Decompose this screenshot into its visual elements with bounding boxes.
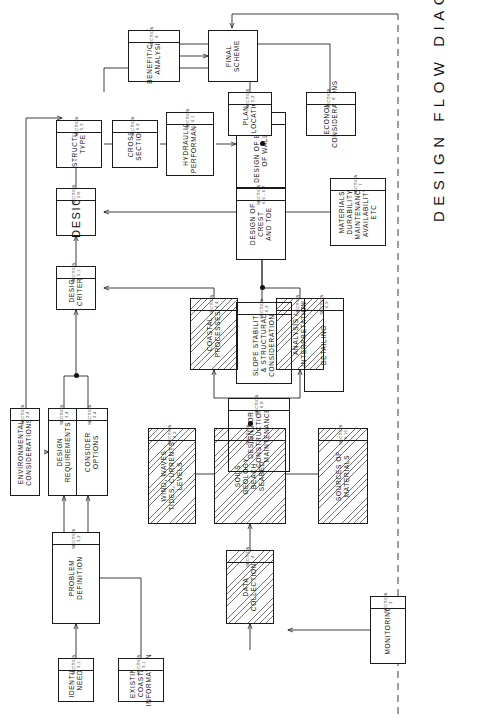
node-coastal-processes[interactable]: COASTAL PROCESSES SECTION 4.4 [190,298,238,370]
node-section: SECTION 7 [331,179,385,191]
node-label: DESIGN REQUIREMENTS [56,422,72,482]
node-section: SECTION 6.8 [229,399,289,411]
node-section: SECTION 5.3 [57,121,101,133]
node-sources-of-materials[interactable]: SOURCES OF MATERIALS SECTION 4.10 [318,428,368,524]
node-section: SECTION 5/6 [57,189,95,201]
diagram-page: IDENTIFY NEED SECTION 3.1 EXISTING COAST… [0,0,478,728]
node-section: SECTION 2 [371,597,405,609]
node-section: SECTION 4 [227,551,273,563]
node-label: COASTAL PROCESSES [206,311,222,358]
node-hydraulic-performance[interactable]: HYDRAULIC PERFORMANCE SECTION 6.1 [166,112,214,176]
node-final-scheme[interactable]: FINAL SCHEME [208,30,258,82]
node-economic-considerations[interactable]: ECONOMIC CONSIDERATIONS SECTION 8 [306,92,356,136]
node-benefit-cost-analysis[interactable]: BENEFIT/COST ANALYSIS SECTION 8 [128,30,180,82]
node-consider-options[interactable]: CONSIDER OPTIONS SECTION 3.4 [76,408,108,496]
node-problem-definition[interactable]: PROBLEM DEFINITION SECTION 3.2 [52,532,100,624]
node-label: SLOPE STABILITY & STRUCTURAL CONSIDERATI… [252,309,277,377]
node-section: SECTION 3.4 [77,409,107,421]
node-section: SECTION 6.1 [167,113,213,125]
node-existing-coastal-information[interactable]: EXISTING COASTAL INFORMATION SECTION 3.1 [118,658,164,702]
node-label: SOILS GEOLOGY BEACH SEABED [234,457,267,494]
node-environmental-considerations[interactable]: ENVIRONMENTAL CONSIDERATIONS SECTION 3.4 [10,408,40,496]
node-label: DATA COLLECTION [242,563,258,611]
node-section: SECTION 4.10 [319,429,367,441]
node-label: CONSIDER OPTIONS [84,432,100,472]
node-plan-location[interactable]: PLAN/ LOCATION SECTION 5.2 [228,92,272,136]
node-section: SECTION 6.6 - 6.7 [237,189,285,201]
node-section: SECTION 4.2 [149,429,195,441]
node-section: SECTION 6.2 [113,121,157,133]
node-data-collection[interactable]: DATA COLLECTION SECTION 4 [226,550,274,624]
node-analysis-interpretation[interactable]: ANALYSIS / INTERPRETATION SECTION 4.11 [276,298,324,370]
node-section: SECTION 3.1 [119,659,163,671]
node-section: SECTION 3.1 [59,659,93,671]
node-label: SOURCES OF MATERIALS [335,451,351,501]
node-section: SECTION 8 [129,31,179,43]
node-design-of-crest-and-toe[interactable]: DESIGN OF CREST AND TOE SECTION 6.6 - 6.… [236,188,286,260]
node-section: SECTION 5.1 [57,267,95,279]
node-section: SECTION 8 [307,93,355,105]
node-section: SECTION 3.2 [53,533,99,545]
node-structure-type[interactable]: STRUCTURE TYPE SECTION 5.3 [56,120,102,168]
node-materials-durability[interactable]: MATERIALS DURABILITY MAINTENANCE AVAILAB… [330,178,386,246]
node-label: WIND, WAVES TIDES, CURRENTS LEVELS [160,441,185,510]
node-section: SECTION 4.3 - 4.4 [215,429,285,441]
node-section: SECTION 4.4 [191,299,237,311]
node-monitoring[interactable]: MONITORING SECTION 2 [370,596,406,664]
node-wind-waves-tides[interactable]: WIND, WAVES TIDES, CURRENTS LEVELS SECTI… [148,428,196,524]
node-soils-geology-beach-seabed[interactable]: SOILS GEOLOGY BEACH SEABED SECTION 4.3 -… [214,428,286,524]
node-design-criteria[interactable]: DESIGN CRITERIA SECTION 5.1 [56,266,96,310]
flow-diagram-canvas: IDENTIFY NEED SECTION 3.1 EXISTING COAST… [0,0,478,728]
node-design[interactable]: DESIGN SECTION 5/6 [56,188,96,236]
node-cross-section[interactable]: CROSS SECTION SECTION 6.2 [112,120,158,168]
node-label: PROBLEM DEFINITION [68,556,84,600]
node-section: SECTION 4.11 [277,299,323,311]
node-label: MONITORING [384,606,392,655]
node-label: ENVIRONMENTAL CONSIDERATIONS [17,418,33,486]
node-section: SECTION 5.2 [229,93,271,105]
node-label: FINAL SCHEME [225,40,241,72]
node-section: SECTION 3.4 [49,409,79,421]
node-section: SECTION 3.4 [11,409,39,421]
node-identify-need[interactable]: IDENTIFY NEED SECTION 3.1 [58,658,94,702]
diagram-title: DESIGN FLOW DIAGRAM [430,0,447,222]
